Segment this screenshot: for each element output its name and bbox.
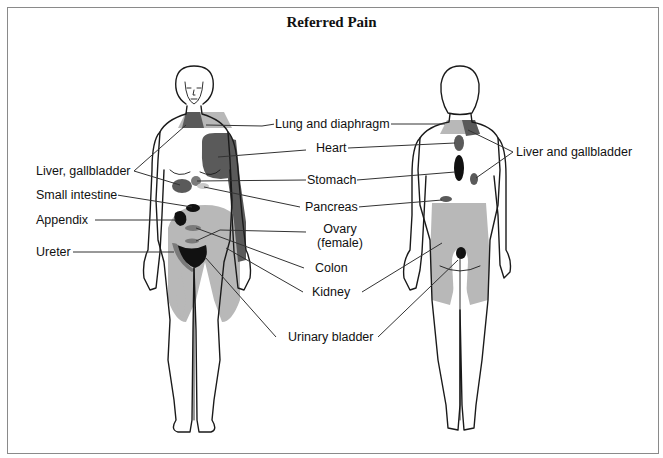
stomach-zone-back (454, 155, 464, 181)
label-liver-gallbladder-front: Liver, gallbladder (35, 164, 132, 178)
label-lung-and-diaphragm: Lung and diaphragm (274, 117, 391, 131)
label-ureter: Ureter (35, 245, 72, 259)
label-kidney: Kidney (311, 285, 351, 299)
leader-small-intestine (117, 195, 192, 207)
front-right-arm-outline (144, 132, 165, 290)
label-stomach: Stomach (306, 173, 357, 187)
label-small-intestine: Small intestine (35, 188, 118, 202)
label-ovary-line1: Ovary (312, 222, 368, 236)
leader-heart-back (348, 143, 455, 148)
leader-pancreas-front (204, 187, 300, 207)
liver-gallbladder-zone-front (172, 179, 192, 193)
small-intestine-zone (186, 204, 200, 212)
colon-zone (185, 225, 201, 231)
pancreas-zone-back (440, 196, 452, 202)
urinary-bladder-zone-back (456, 247, 466, 259)
leader-stomach-back (357, 172, 455, 180)
leader-liver-back-1 (468, 130, 513, 152)
label-urinary-bladder: Urinary bladder (287, 330, 374, 344)
label-ovary: Ovary (female) (311, 222, 369, 250)
front-face (185, 82, 203, 104)
back-figure (404, 66, 511, 430)
leader-pancreas-back (358, 200, 442, 207)
label-colon: Colon (314, 261, 349, 275)
label-heart: Heart (315, 141, 348, 155)
leader-liver-back-2 (476, 152, 513, 178)
liver-gallbladder-zone-back (470, 173, 478, 185)
label-pancreas: Pancreas (304, 200, 359, 214)
label-liver-and-gallbladder-back: Liver and gallbladder (515, 145, 633, 159)
heart-zone-back (454, 135, 464, 151)
leader-kidney-back (362, 243, 442, 292)
front-head-outline (176, 66, 214, 104)
front-figure (144, 66, 251, 432)
leader-stomach-front (197, 180, 306, 181)
back-head-outline (441, 66, 479, 115)
label-appendix: Appendix (35, 213, 89, 227)
label-ovary-line2: (female) (312, 236, 368, 250)
